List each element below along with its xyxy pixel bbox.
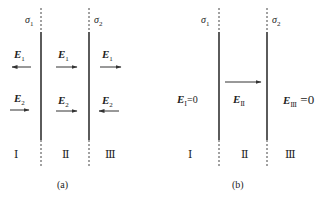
field-label-region3-b: EⅢ =0	[283, 93, 314, 109]
e1-label-region1-a: E1	[14, 49, 25, 63]
sigma-1-label-b: σ1	[201, 15, 209, 28]
e2-label-region3-a: E2	[102, 95, 113, 109]
region-2-label-a: Ⅱ	[62, 149, 69, 160]
field-label-region2-b: EⅡ	[233, 94, 245, 108]
region-1-label-a: Ⅰ	[14, 149, 18, 160]
caption-b: (b)	[232, 180, 244, 190]
region-3-label-b: Ⅲ	[285, 149, 296, 160]
diagram-canvas	[0, 0, 318, 201]
region-3-label-a: Ⅲ	[105, 149, 116, 160]
e2-label-region2-a: E2	[58, 95, 69, 109]
sigma-2-label-b: σ2	[272, 15, 280, 28]
region-1-label-b: Ⅰ	[188, 149, 192, 160]
sigma-2-label-a: σ2	[94, 15, 102, 28]
region-2-label-b: Ⅱ	[241, 149, 248, 160]
sigma-1-label-a: σ1	[25, 15, 33, 28]
e1-label-region3-a: E1	[102, 49, 113, 63]
field-label-region1-b: EⅠ=0	[177, 94, 198, 108]
e2-label-region1-a: E2	[14, 93, 25, 107]
caption-a: (a)	[57, 180, 68, 190]
e1-label-region2-a: E1	[58, 49, 69, 63]
